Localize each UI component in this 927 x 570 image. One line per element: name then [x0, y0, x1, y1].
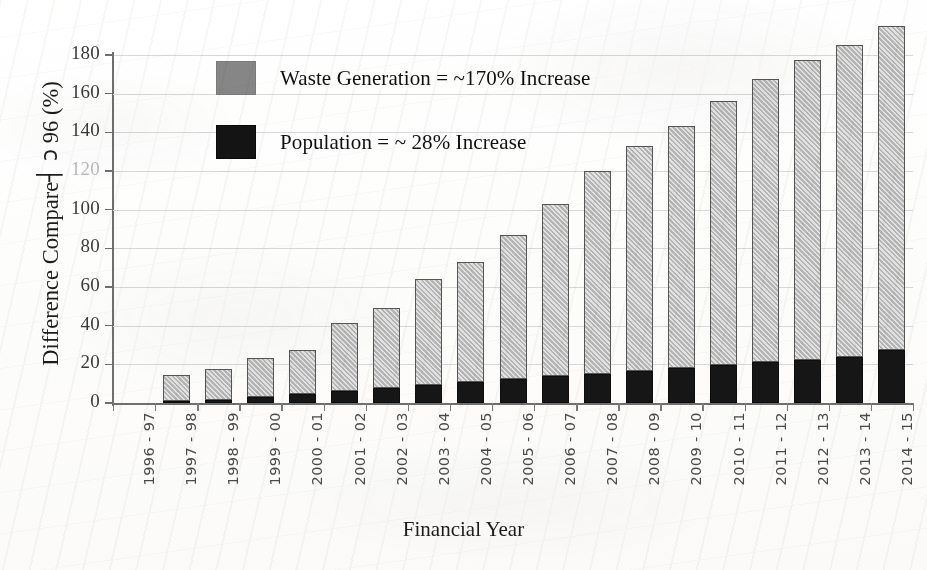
x-axis-tick	[745, 403, 746, 411]
bar-stack[interactable]	[205, 369, 232, 403]
x-axis-tick	[450, 403, 451, 411]
y-axis-title-artifact: ┤ ɔ	[36, 149, 62, 182]
bar-segment-waste-generation[interactable]	[710, 101, 737, 364]
x-axis-tick	[281, 403, 282, 411]
bar-stack[interactable]	[710, 101, 737, 403]
bar-segment-waste-generation[interactable]	[163, 375, 190, 401]
stacked-bar-chart: 020406080100120140160180 1996 - 971997 -…	[0, 0, 927, 570]
bar-segment-waste-generation[interactable]	[626, 146, 653, 371]
x-axis-tick	[113, 403, 114, 411]
x-axis-tick	[197, 403, 198, 411]
bar-segment-waste-generation[interactable]	[668, 126, 695, 368]
x-axis-tick	[913, 403, 914, 411]
x-axis-tick	[492, 403, 493, 411]
gridline	[113, 171, 913, 172]
bar-segment-waste-generation[interactable]	[752, 79, 779, 363]
x-axis-tick-label: 1999 - 00	[267, 412, 283, 485]
x-axis-tick	[660, 403, 661, 411]
bar-segment-population[interactable]	[584, 374, 611, 403]
x-axis-tick	[576, 403, 577, 411]
bar-stack[interactable]	[289, 350, 316, 403]
x-axis-tick	[408, 403, 409, 411]
y-axis-line	[112, 52, 114, 406]
y-axis-title-suffix: 96 (%)	[38, 81, 63, 143]
bar-segment-waste-generation[interactable]	[289, 350, 316, 394]
x-axis-tick	[534, 403, 535, 411]
bar-segment-population[interactable]	[457, 382, 484, 403]
bar-stack[interactable]	[331, 323, 358, 403]
x-axis-tick-label: 2011 - 12	[773, 412, 789, 485]
bar-stack[interactable]	[373, 308, 400, 403]
bar-segment-population[interactable]	[542, 376, 569, 403]
bar-segment-population[interactable]	[794, 360, 821, 403]
x-axis-tick-label: 2004 - 05	[478, 412, 494, 485]
x-axis-tick-label: 1997 - 98	[183, 412, 199, 485]
bar-segment-population[interactable]	[752, 362, 779, 403]
x-axis-tick	[618, 403, 619, 411]
bar-segment-population[interactable]	[163, 401, 190, 403]
bar-stack[interactable]	[415, 279, 442, 403]
x-axis-tick-label: 2003 - 04	[436, 412, 452, 485]
bar-segment-waste-generation[interactable]	[542, 204, 569, 376]
bar-segment-population[interactable]	[668, 368, 695, 403]
bar-segment-population[interactable]	[415, 385, 442, 403]
y-axis-tick	[105, 286, 114, 288]
bar-stack[interactable]	[668, 126, 695, 403]
y-axis-tick	[105, 248, 114, 250]
bar-segment-population[interactable]	[500, 379, 527, 403]
y-axis-tick	[105, 93, 114, 95]
bar-segment-population[interactable]	[373, 388, 400, 403]
bar-stack[interactable]	[836, 45, 863, 403]
bar-stack[interactable]	[542, 204, 569, 403]
x-axis-tick	[324, 403, 325, 411]
bar-stack[interactable]	[500, 235, 527, 403]
bar-segment-waste-generation[interactable]	[584, 171, 611, 374]
x-axis-tick	[155, 403, 156, 411]
x-axis-tick-label: 1996 - 97	[141, 412, 157, 485]
bar-segment-population[interactable]	[331, 391, 358, 403]
bar-stack[interactable]	[584, 171, 611, 403]
x-axis-line	[112, 403, 913, 405]
bar-segment-waste-generation[interactable]	[457, 262, 484, 382]
bar-segment-waste-generation[interactable]	[331, 323, 358, 391]
x-axis-tick	[702, 403, 703, 411]
bar-segment-population[interactable]	[878, 350, 905, 403]
gridline	[113, 210, 913, 211]
bar-segment-population[interactable]	[710, 365, 737, 403]
bar-stack[interactable]	[752, 79, 779, 403]
bar-segment-population[interactable]	[205, 400, 232, 403]
bar-stack[interactable]	[163, 375, 190, 403]
bar-stack[interactable]	[794, 60, 821, 403]
legend-swatch-pop	[216, 125, 256, 159]
bar-segment-waste-generation[interactable]	[205, 369, 232, 399]
x-axis-tick-label: 2005 - 06	[520, 412, 536, 485]
x-axis-title: Financial Year	[0, 517, 927, 542]
bar-stack[interactable]	[457, 262, 484, 403]
bar-segment-waste-generation[interactable]	[794, 60, 821, 360]
x-axis-tick	[829, 403, 830, 411]
bar-segment-waste-generation[interactable]	[247, 358, 274, 398]
bar-segment-population[interactable]	[836, 357, 863, 403]
x-axis-tick-label: 2012 - 13	[815, 412, 831, 485]
bar-segment-population[interactable]	[247, 397, 274, 403]
legend-label: Waste Generation = ~170% Increase	[280, 66, 591, 91]
bar-segment-population[interactable]	[289, 394, 316, 403]
legend-item[interactable]: Waste Generation = ~170% Increase	[216, 56, 591, 100]
x-axis-tick-label: 2013 - 14	[857, 412, 873, 485]
bar-segment-waste-generation[interactable]	[415, 279, 442, 385]
bar-stack[interactable]	[626, 146, 653, 403]
bar-segment-waste-generation[interactable]	[836, 45, 863, 357]
x-axis-tick-label: 1998 - 99	[225, 412, 241, 485]
bar-segment-waste-generation[interactable]	[878, 26, 905, 350]
bar-segment-waste-generation[interactable]	[500, 235, 527, 379]
bar-segment-population[interactable]	[626, 371, 653, 403]
bar-segment-waste-generation[interactable]	[373, 308, 400, 388]
y-axis-tick	[105, 132, 114, 134]
bar-stack[interactable]	[878, 26, 905, 403]
y-axis-tick	[105, 325, 114, 327]
bar-stack[interactable]	[247, 358, 274, 403]
y-axis-title-prefix: Difference Compare	[38, 182, 63, 366]
y-axis-tick	[105, 170, 114, 172]
legend-item[interactable]: Population = ~ 28% Increase	[216, 120, 591, 164]
x-axis-tick	[239, 403, 240, 411]
